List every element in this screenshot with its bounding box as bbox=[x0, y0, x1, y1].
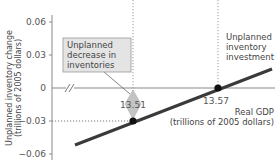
callout-pointer bbox=[104, 72, 130, 94]
y-tick-label: −0.06 bbox=[18, 149, 46, 159]
y-axis-label: Unplanned inventory change (trillions of… bbox=[5, 30, 23, 146]
chart-canvas: 0.06 0.03 0 −0.03 −0.06 Unplanned invent… bbox=[0, 0, 280, 165]
callout-box: Unplanned decrease in inventories bbox=[63, 38, 131, 72]
y-tick-label: 0.03 bbox=[26, 50, 46, 60]
point-13-57 bbox=[214, 84, 221, 91]
x-axis-label-line2: (trillions of 2005 dollars) bbox=[170, 117, 274, 127]
y-tick-label: 0.06 bbox=[26, 17, 46, 27]
svg-text:inventory: inventory bbox=[226, 42, 266, 52]
svg-text:Unplanned: Unplanned bbox=[67, 40, 113, 50]
x-axis-label-line1: Real GDP bbox=[235, 107, 274, 117]
point-13-51 bbox=[129, 117, 136, 124]
svg-text:investment: investment bbox=[226, 52, 275, 62]
y-tick-label: 0 bbox=[40, 83, 46, 93]
svg-text:inventories: inventories bbox=[67, 60, 115, 70]
svg-text:Unplanned: Unplanned bbox=[226, 32, 272, 42]
x-value-label-13-57: 13.57 bbox=[203, 96, 229, 106]
svg-text:decrease in: decrease in bbox=[67, 50, 116, 60]
axis-break-icon bbox=[65, 84, 74, 92]
curve-label: Unplanned inventory investment bbox=[226, 32, 275, 62]
svg-text:Unplanned inventory change: Unplanned inventory change bbox=[5, 30, 14, 146]
x-value-label-13-51: 13.51 bbox=[120, 100, 146, 110]
svg-text:(trillions of 2005 dollars): (trillions of 2005 dollars) bbox=[14, 39, 23, 137]
